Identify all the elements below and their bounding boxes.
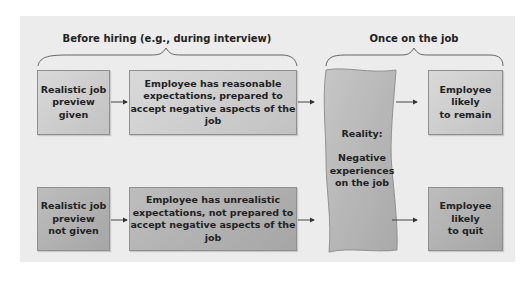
box-likely-to-remain: Employee likely to remain	[428, 70, 503, 135]
brace-once-on-job	[326, 48, 503, 66]
box-likely-to-quit: Employee likely to quit	[428, 187, 503, 251]
box-preview-given-text: Realistic job preview given	[38, 84, 109, 122]
reality-title: Reality:	[325, 128, 399, 141]
box-likely-to-remain-text: Employee likely to remain	[439, 84, 491, 122]
brace-before-hiring	[38, 48, 297, 66]
box-unrealistic-expectations: Employee has unrealistic expectations, n…	[129, 187, 297, 251]
phase-label-once-on-job: Once on the job	[325, 33, 503, 44]
box-preview-not-given-text: Realistic job preview not given	[41, 200, 107, 238]
reality-body: Negative experiences on the job	[325, 152, 399, 190]
box-reasonable-expectations: Employee has reasonable expectations, pr…	[129, 70, 297, 135]
box-reasonable-expectations-text: Employee has reasonable expectations, pr…	[130, 78, 296, 128]
phase-label-before-hiring: Before hiring (e.g., during interview)	[37, 33, 297, 44]
box-unrealistic-expectations-text: Employee has unrealistic expectations, n…	[130, 194, 296, 244]
box-preview-not-given: Realistic job preview not given	[37, 187, 110, 251]
box-likely-to-quit-text: Employee likely to quit	[439, 200, 491, 238]
box-preview-given: Realistic job preview given	[37, 70, 110, 135]
